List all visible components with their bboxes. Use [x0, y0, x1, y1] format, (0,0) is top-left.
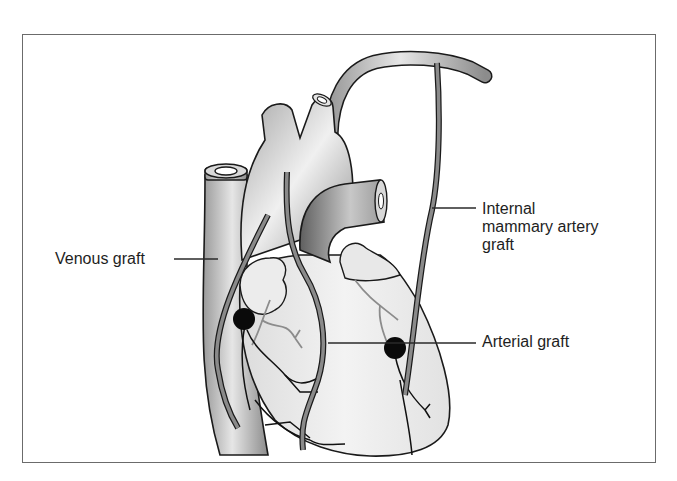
label-venous-graft: Venous graft	[55, 250, 145, 268]
label-ima-line1: Internal	[482, 200, 598, 218]
anastomosis-dot-right	[384, 337, 406, 359]
internal-mammary-arch	[331, 58, 485, 135]
label-internal-mammary-artery-graft: Internal mammary artery graft	[482, 200, 598, 254]
anastomosis-dot-left	[233, 308, 255, 330]
label-arterial-graft: Arterial graft	[482, 333, 569, 351]
label-ima-line2: mammary artery	[482, 218, 598, 236]
label-ima-line3: graft	[482, 236, 598, 254]
